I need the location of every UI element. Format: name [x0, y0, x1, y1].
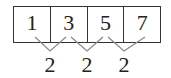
- connector-v: [71, 37, 103, 51]
- difference-label: 2: [114, 54, 134, 76]
- connector-v: [35, 37, 66, 51]
- connector-v: [108, 37, 145, 51]
- difference-label: 2: [40, 54, 60, 76]
- difference-label: 2: [77, 54, 97, 76]
- difference-diagram: 1 3 5 7 2 2 2: [0, 0, 171, 78]
